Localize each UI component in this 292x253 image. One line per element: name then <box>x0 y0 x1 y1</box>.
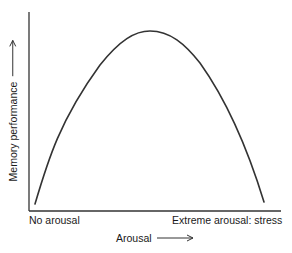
arrow-right-icon <box>157 234 195 242</box>
performance-curve <box>35 31 264 204</box>
x-axis-title-text: Arousal <box>116 233 152 244</box>
yerkes-dodson-figure: No arousal Extreme arousal: stress Arous… <box>0 0 292 253</box>
y-axis-title-text: Memory performance <box>8 82 19 182</box>
x-label-no-arousal: No arousal <box>29 215 80 226</box>
arrow-up-icon <box>9 39 17 77</box>
x-axis-title: Arousal <box>116 233 195 244</box>
x-label-extreme-arousal: Extreme arousal: stress <box>172 215 282 226</box>
y-axis-title: Memory performance <box>8 39 19 182</box>
